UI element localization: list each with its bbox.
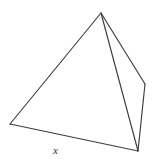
tetrahedron-drawing bbox=[0, 0, 152, 164]
front-left-face-overlay bbox=[10, 13, 138, 151]
base-edge-label: x bbox=[53, 145, 58, 156]
geometry-figure: x bbox=[0, 0, 152, 164]
